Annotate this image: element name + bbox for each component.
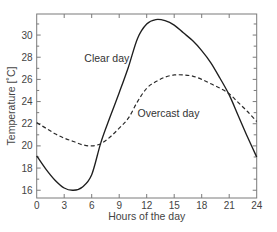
plot-frame xyxy=(37,14,257,198)
x-tick-label: 18 xyxy=(196,200,208,211)
x-axis-label: Hours of the day xyxy=(108,210,186,222)
y-tick-label: 26 xyxy=(22,74,34,85)
temperature-chart: 036912151821241618202224262830 Clear day… xyxy=(0,0,277,232)
y-tick-label: 20 xyxy=(22,140,34,151)
y-tick-label: 18 xyxy=(22,163,34,174)
x-tick-label: 6 xyxy=(89,200,95,211)
y-tick-label: 24 xyxy=(22,96,34,107)
series-annotations: Clear dayOvercast day xyxy=(84,52,200,119)
overcast-day-label: Overcast day xyxy=(138,107,201,119)
data-series xyxy=(37,19,257,190)
y-tick-label: 28 xyxy=(22,52,34,63)
y-tick-label: 16 xyxy=(22,185,34,196)
axis-ticks xyxy=(37,14,257,198)
clear-day-label: Clear day xyxy=(84,52,130,64)
y-axis-label: Temperature [˚C] xyxy=(5,67,17,146)
y-tick-label: 22 xyxy=(22,118,34,129)
clear-day-line xyxy=(37,19,257,190)
y-tick-label: 30 xyxy=(22,30,34,41)
x-tick-label: 21 xyxy=(224,200,236,211)
x-tick-label: 0 xyxy=(34,200,40,211)
x-tick-label: 3 xyxy=(61,200,67,211)
x-tick-label: 24 xyxy=(251,200,263,211)
